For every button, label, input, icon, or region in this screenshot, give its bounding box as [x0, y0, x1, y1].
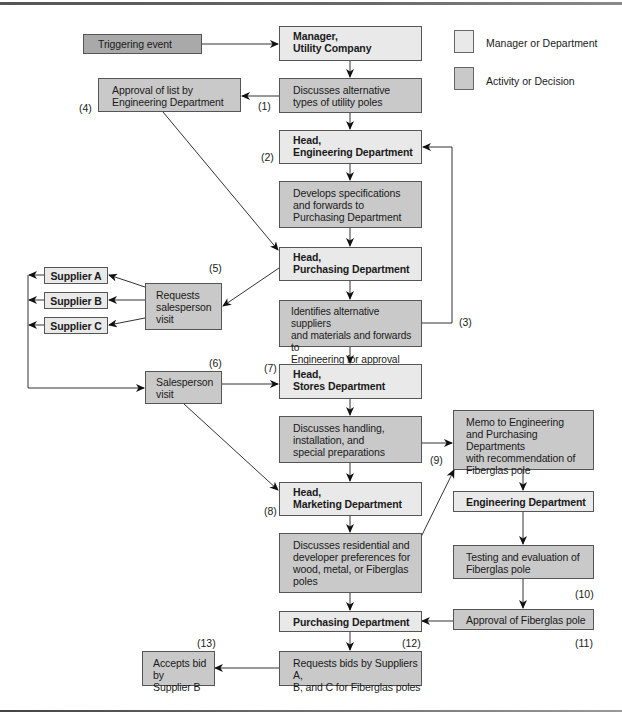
node-text: Purchasing Department: [293, 616, 409, 628]
step-label-2: (2): [261, 151, 274, 163]
node-text: Requests bids by Suppliers A, B, and C f…: [293, 657, 421, 693]
node-text: Head, Stores Department: [293, 368, 421, 392]
legend-manager-label: Manager or Department: [486, 37, 597, 49]
node-text: Triggering event: [98, 38, 172, 50]
node-head-marketing: Head, Marketing Department: [279, 482, 422, 516]
node-purchasing-department: Purchasing Department: [279, 611, 422, 632]
node-text: Approval of Fiberglas pole: [466, 614, 585, 626]
node-text: Develops specifications and forwards to …: [293, 187, 421, 223]
node-text: Testing and evaluation of Fiberglas pole: [466, 551, 593, 575]
node-text: Accepts bid by Supplier B: [153, 657, 214, 693]
step-label-6: (6): [209, 357, 222, 369]
legend-activity-swatch: [454, 67, 474, 90]
node-text: Supplier B: [50, 295, 102, 307]
step-label-12: (12): [402, 637, 421, 649]
node-text: Head, Engineering Department: [293, 134, 421, 158]
step-label-13: (13): [197, 637, 216, 649]
node-salesperson-visit: Salesperson visit: [145, 371, 222, 404]
node-memo-recommendation: Memo to Engineering and Purchasing Depar…: [453, 410, 594, 470]
node-head-purchasing: Head, Purchasing Department: [279, 247, 422, 281]
node-triggering-event: Triggering event: [83, 34, 202, 54]
node-testing-evaluation: Testing and evaluation of Fiberglas pole: [453, 545, 594, 579]
step-label-11: (11): [575, 637, 593, 649]
step-label-9: (9): [430, 454, 443, 466]
node-text: Memo to Engineering and Purchasing Depar…: [466, 416, 593, 476]
node-manager-utility-company: Manager, Utility Company: [279, 26, 422, 61]
node-accepts-bid: Accepts bid by Supplier B: [142, 651, 215, 686]
step-label-7: (7): [264, 362, 277, 374]
node-supplier-a: Supplier A: [44, 267, 108, 284]
node-text: Supplier C: [50, 320, 102, 332]
node-head-stores: Head, Stores Department: [279, 364, 422, 399]
step-label-10: (10): [575, 588, 594, 600]
node-supplier-c: Supplier C: [44, 317, 108, 334]
step-label-5: (5): [209, 262, 222, 274]
node-text: Manager, Utility Company: [293, 30, 421, 54]
node-approval-fiberglas: Approval of Fiberglas pole: [453, 609, 594, 630]
node-text: Head, Purchasing Department: [293, 251, 421, 275]
node-text: Supplier A: [50, 270, 101, 282]
node-text: Head, Marketing Department: [293, 486, 421, 510]
step-label-4: (4): [79, 102, 92, 114]
node-text: Discusses alternative types of utility p…: [293, 84, 421, 108]
node-identifies-alternative-suppliers: Identifies alternative suppliers and mat…: [279, 300, 422, 347]
node-requests-salesperson-visit: Requests salesperson visit: [145, 283, 222, 330]
node-approval-of-list: Approval of list by Engineering Departme…: [98, 78, 241, 112]
node-head-engineering: Head, Engineering Department: [279, 130, 422, 164]
step-label-1: (1): [258, 100, 271, 112]
node-text: Approval of list by Engineering Departme…: [112, 84, 240, 108]
node-discusses-residential: Discusses residential and developer pref…: [279, 533, 422, 593]
node-discusses-handling: Discusses handling, installation, and sp…: [279, 416, 422, 463]
node-text: Discusses handling, installation, and sp…: [293, 422, 421, 458]
node-text: Engineering Department: [466, 496, 586, 508]
legend-activity-label: Activity or Decision: [486, 75, 575, 87]
step-label-3: (3): [459, 316, 472, 328]
node-text: Requests salesperson visit: [156, 289, 221, 325]
node-text: Salesperson visit: [156, 376, 221, 400]
node-engineering-department: Engineering Department: [453, 491, 594, 512]
node-text: Identifies alternative suppliers and mat…: [291, 306, 421, 366]
node-discusses-alternative: Discusses alternative types of utility p…: [279, 78, 422, 113]
node-supplier-b: Supplier B: [44, 292, 108, 309]
node-text: Discusses residential and developer pref…: [293, 539, 421, 587]
legend-manager-swatch: [454, 30, 474, 53]
node-develops-specifications: Develops specifications and forwards to …: [279, 181, 422, 228]
step-label-8: (8): [264, 505, 277, 517]
node-requests-bids: Requests bids by Suppliers A, B, and C f…: [279, 651, 422, 686]
